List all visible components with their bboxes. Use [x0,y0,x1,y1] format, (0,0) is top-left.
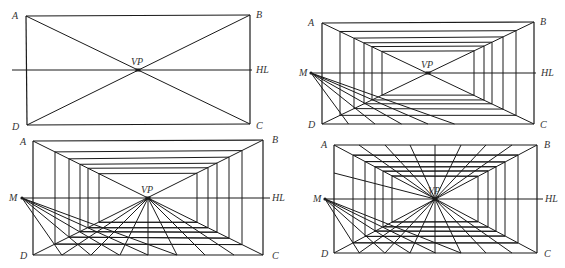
inner-ceiling-edge [340,31,516,32]
label-b: B [544,139,550,150]
floor-grid-line [120,198,148,255]
label-a: A [11,10,19,21]
label-b: B [272,134,278,145]
floor-grid-line [410,199,435,253]
panel-3: ABCDVPHLM [8,134,285,261]
label-d: D [19,250,28,261]
label-c: C [272,250,279,261]
label-c: C [540,119,547,130]
vanishing-point-marker [433,198,438,201]
frame-top [26,15,250,16]
ceiling-grid-line [359,145,435,199]
panel-1: ABCDVPHL [11,9,269,132]
inner-ceiling-edge [354,37,503,38]
label-c: C [256,120,263,131]
inner-ceiling-edge [69,157,229,159]
label-d: D [307,119,316,130]
label-hl: HL [271,192,285,203]
panel-4: ABCDVPHLM [312,139,558,259]
inner-ceiling-edge [88,168,208,169]
label-a: A [320,139,328,150]
label-b: B [540,16,546,27]
label-m: M [312,193,322,204]
label-hl: HL [540,67,554,78]
ceiling-grid-line [435,145,512,199]
vanishing-point-marker [146,197,151,200]
measure-line [311,73,455,124]
label-c: C [544,248,551,259]
inner-ceiling-edge [55,151,242,152]
label-a: A [307,17,315,28]
frame-top [33,140,263,141]
floor-grid-line [148,198,205,255]
floor-grid-line [435,199,461,253]
inner-ceiling-edge [372,46,484,47]
label-a: A [19,136,27,147]
measure-line [311,73,402,124]
label-vp: VP [428,185,440,196]
label-vp: VP [141,184,153,195]
measure-line [325,199,436,253]
inner-ceiling-edge [364,42,492,43]
floor-grid-line [435,199,512,253]
one-point-perspective-diagram: ABCDVPHL ABCDVPHLM ABCDVPHLM ABCDVPHLM [0,0,565,268]
label-d: D [11,121,20,132]
frame-top [322,22,534,23]
label-hl: HL [255,64,269,75]
vanishing-point-marker [136,69,141,72]
vanishing-point-marker [426,72,431,75]
label-vp: VP [421,59,433,70]
inner-ceiling-edge [80,163,217,164]
wall-line [334,173,435,199]
measure-line [311,73,428,124]
frame-bottom [27,124,250,125]
floor-grid-line [148,198,234,255]
panel-2: ABCDVPHLM [298,16,554,130]
label-hl: HL [544,193,558,204]
label-m: M [8,192,18,203]
label-b: B [256,9,262,20]
label-vp: VP [131,56,143,67]
floor-transversal [69,237,229,238]
label-m: M [298,67,308,78]
label-d: D [320,248,329,259]
perspective-diagram-stage: ABCDVPHL ABCDVPHLM ABCDVPHLM ABCDVPHLM [0,0,565,268]
